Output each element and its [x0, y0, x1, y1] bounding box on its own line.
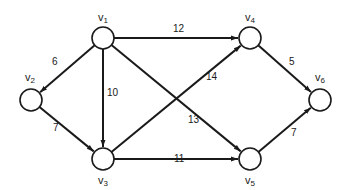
node-label-v4: v4 — [245, 12, 255, 26]
node-label-subscript: 3 — [104, 179, 108, 188]
edge-weight-label: 6 — [52, 57, 58, 67]
edge-weight-label: 13 — [188, 115, 199, 125]
edge-v4-v6 — [258, 45, 311, 92]
node-v5 — [239, 148, 261, 170]
node-label-v1: v1 — [98, 12, 108, 26]
edge-weight-label: 10 — [107, 88, 118, 98]
node-label-subscript: 2 — [31, 76, 35, 85]
edge-v1-v2 — [40, 45, 95, 92]
node-label-v6: v6 — [315, 72, 325, 86]
edge-weight-label: 11 — [174, 154, 184, 164]
node-label-subscript: 4 — [251, 16, 255, 25]
edge-v2-v3 — [40, 107, 94, 151]
edge-weight-label: 14 — [206, 72, 217, 82]
edge-weight-label: 7 — [53, 123, 59, 133]
node-v2 — [20, 89, 42, 111]
node-v4 — [239, 27, 261, 49]
edge-weight-label: 7 — [291, 128, 297, 138]
edge-v5-v6 — [258, 108, 310, 152]
node-v3 — [92, 148, 114, 170]
node-v1 — [92, 27, 114, 49]
edge-weight-label: 12 — [173, 24, 184, 34]
node-label-v2: v2 — [25, 72, 35, 86]
node-v6 — [309, 89, 331, 111]
node-label-subscript: 5 — [251, 179, 255, 188]
node-label-v3: v3 — [98, 175, 108, 189]
node-label-subscript: 1 — [104, 16, 108, 25]
edges-layer — [40, 38, 312, 159]
node-label-subscript: 6 — [321, 76, 325, 85]
edge-weight-label: 5 — [289, 57, 295, 67]
node-label-v5: v5 — [245, 175, 255, 189]
